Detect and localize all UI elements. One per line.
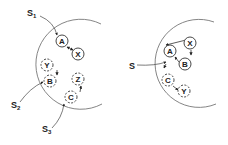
node-c-right: C <box>162 74 174 86</box>
svg-text:A: A <box>167 47 173 56</box>
svg-text:Z: Z <box>76 75 81 84</box>
root-pointer-s3 <box>52 104 64 128</box>
node-b-right: B <box>179 58 191 70</box>
root-label-s: S <box>129 61 135 71</box>
root-label-s1: S1 <box>27 8 37 19</box>
root-label-s2: S2 <box>11 100 21 111</box>
svg-text:B: B <box>182 60 188 69</box>
edge-c-z <box>80 86 81 92</box>
root-pointer-s-branch <box>164 64 166 68</box>
node-z: Z <box>72 73 84 85</box>
root-label-s3: S3 <box>42 124 52 135</box>
root-pointer-s1 <box>40 16 57 35</box>
edge-b-a-right <box>175 57 179 62</box>
node-x-right: X <box>184 37 196 49</box>
node-y-right: Y <box>178 85 190 97</box>
reachability-diagram: A X Y B Z C S1 S2 S3 <box>0 0 228 145</box>
svg-text:Y: Y <box>44 61 50 70</box>
node-b: B <box>44 75 56 87</box>
root-pointer-s <box>137 62 166 65</box>
right-panel: A X B C Y S <box>129 19 216 107</box>
svg-text:C: C <box>165 76 171 85</box>
node-a-right: A <box>164 45 176 57</box>
svg-text:Y: Y <box>181 87 187 96</box>
node-a: A <box>56 35 68 47</box>
edge-a-x <box>67 47 73 50</box>
svg-text:A: A <box>59 37 65 46</box>
root-pointer-s2 <box>20 82 43 102</box>
svg-text:X: X <box>187 39 193 48</box>
edge-a-x-right <box>166 40 186 45</box>
node-x: X <box>72 48 84 60</box>
svg-text:B: B <box>47 77 53 86</box>
svg-text:X: X <box>75 50 81 59</box>
node-c: C <box>65 91 77 103</box>
edge-c-y-right <box>173 86 178 90</box>
svg-text:C: C <box>68 93 74 102</box>
left-panel: A X Y B Z C S1 S2 S3 <box>11 8 102 135</box>
node-y: Y <box>41 59 53 71</box>
